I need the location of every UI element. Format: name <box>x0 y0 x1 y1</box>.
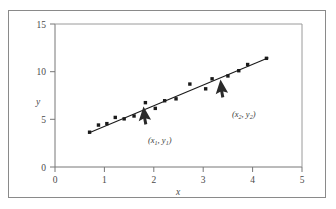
data-point <box>144 101 147 104</box>
annot2-close: ) <box>252 109 256 119</box>
data-point <box>97 123 100 126</box>
data-point <box>114 116 117 119</box>
data-point <box>154 107 157 110</box>
x-tick-label-3: 3 <box>201 175 206 185</box>
y-tick-label-0: 0 <box>41 163 46 173</box>
data-point <box>265 57 268 60</box>
data-point <box>163 99 166 102</box>
x-tick-label-2: 2 <box>151 175 156 185</box>
data-point <box>105 122 108 125</box>
y-tick-label-5: 5 <box>41 115 46 125</box>
annotation-arrow-2-icon <box>215 80 231 100</box>
x-tick-label-1: 1 <box>102 175 107 185</box>
data-point <box>88 131 91 134</box>
annot1-mid: , y <box>158 135 166 145</box>
y-tick-label-15: 15 <box>37 20 47 30</box>
data-point <box>132 114 135 117</box>
data-point <box>174 97 177 100</box>
data-point <box>210 77 213 80</box>
data-point <box>237 69 240 72</box>
data-point <box>226 74 229 77</box>
data-point <box>188 82 191 85</box>
x-tick-label-0: 0 <box>53 175 58 185</box>
annot2-mid: , y <box>242 109 250 119</box>
scatter-plot: 15 10 5 0 0 1 2 3 4 5 y x <box>0 0 336 209</box>
x-tick-group <box>55 167 302 172</box>
x-tick-label-5: 5 <box>300 175 305 185</box>
annotation-label-2: (x2, y2) <box>232 109 256 120</box>
x-tick-label-4: 4 <box>250 175 255 185</box>
y-tick-group <box>50 24 55 167</box>
annotation-label-1: (x1, y1) <box>148 135 172 146</box>
regression-line <box>88 58 268 133</box>
data-point <box>204 87 207 90</box>
y-tick-label-10: 10 <box>37 67 47 77</box>
figure-container: 15 10 5 0 0 1 2 3 4 5 y x <box>0 0 336 209</box>
data-point <box>122 117 125 120</box>
x-axis-label: x <box>175 187 181 197</box>
data-point <box>246 63 249 66</box>
annot1-close: ) <box>168 135 172 145</box>
y-axis-label: y <box>35 97 41 107</box>
